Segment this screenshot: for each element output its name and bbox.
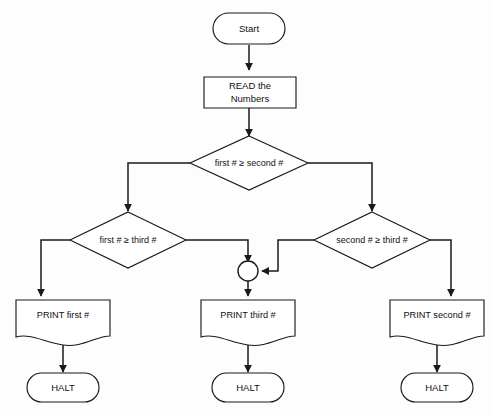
node-print-first-label: PRINT first #: [37, 310, 90, 320]
node-decision-first-vs-third[interactable]: first # ≥ third #: [70, 212, 186, 268]
node-halt-left-label: HALT: [51, 382, 75, 393]
edge-decision3-to-connector: [262, 240, 314, 271]
node-halt-right[interactable]: HALT: [401, 373, 473, 402]
node-read-label-line2: Numbers: [231, 93, 270, 104]
node-halt-center[interactable]: HALT: [212, 373, 284, 402]
node-print-second-label: PRINT second #: [403, 310, 471, 320]
node-start-label: Start: [239, 23, 259, 34]
flowchart-svg: Start READ the Numbers first # ≥ second …: [0, 0, 490, 415]
node-halt-right-label: HALT: [425, 382, 449, 393]
node-halt-center-label: HALT: [236, 382, 260, 393]
node-print-third-label: PRINT third #: [220, 310, 276, 320]
edge-decision2-to-connector: [186, 240, 248, 262]
node-decision-first-vs-third-label: first # ≥ third #: [100, 235, 157, 245]
node-halt-left[interactable]: HALT: [27, 373, 99, 402]
node-read[interactable]: READ the Numbers: [204, 77, 296, 108]
node-print-first[interactable]: PRINT first #: [16, 300, 110, 345]
node-print-second[interactable]: PRINT second #: [390, 300, 484, 345]
edge-decision1-to-decision2: [128, 163, 190, 211]
node-decision-first-vs-second-label: first # ≥ second #: [215, 158, 283, 168]
node-start[interactable]: Start: [213, 13, 285, 44]
node-decision-second-vs-third-label: second # ≥ third #: [336, 235, 407, 245]
flowchart-canvas: Start READ the Numbers first # ≥ second …: [0, 0, 490, 415]
node-print-third[interactable]: PRINT third #: [201, 300, 295, 345]
edge-decision1-to-decision3: [308, 163, 372, 211]
edge-decision3-to-print-second: [430, 240, 451, 296]
node-read-label-line1: READ the: [229, 80, 271, 91]
edge-decision2-to-print-first: [41, 240, 70, 296]
node-connector-circle[interactable]: [238, 261, 258, 281]
node-decision-second-vs-third[interactable]: second # ≥ third #: [314, 212, 430, 268]
node-decision-first-vs-second[interactable]: first # ≥ second #: [190, 136, 308, 190]
